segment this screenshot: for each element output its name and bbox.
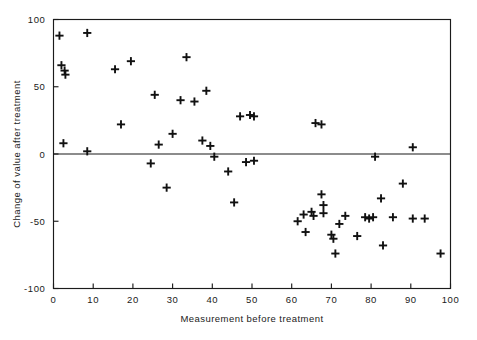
plot-canvas: 0102030405060708090100 100500-50-100 Mea… — [0, 0, 477, 340]
data-point — [242, 158, 250, 166]
data-point — [399, 179, 407, 187]
data-point — [250, 157, 258, 165]
data-point — [353, 232, 361, 240]
y-tick-label: 100 — [28, 14, 46, 25]
data-point — [236, 112, 244, 120]
data-point — [365, 214, 373, 222]
x-tick-label: 70 — [326, 294, 338, 305]
x-tick-label: 90 — [405, 294, 417, 305]
data-point — [379, 241, 387, 249]
x-tick-label: 60 — [286, 294, 298, 305]
data-point — [163, 184, 171, 192]
data-point — [319, 209, 327, 217]
data-point — [409, 143, 417, 151]
x-tick-label: 50 — [246, 294, 258, 305]
y-tick-label: 50 — [34, 81, 46, 92]
y-axis-title: Change of value after treatment — [11, 80, 22, 228]
data-points-layer — [55, 29, 444, 258]
x-tick-label: 30 — [167, 294, 179, 305]
data-point — [198, 136, 206, 144]
data-point — [319, 201, 327, 209]
data-point — [61, 71, 69, 79]
x-tick-labels: 0102030405060708090100 — [51, 294, 460, 305]
x-tick-label: 80 — [365, 294, 377, 305]
data-point — [190, 97, 198, 105]
data-point — [182, 53, 190, 61]
data-point — [294, 217, 302, 225]
data-point — [421, 214, 429, 222]
x-tick-label: 0 — [51, 294, 57, 305]
data-point — [301, 228, 309, 236]
data-point — [250, 112, 258, 120]
x-tick-label: 10 — [87, 294, 99, 305]
data-point — [176, 96, 184, 104]
data-point — [369, 213, 377, 221]
x-tick-label: 20 — [127, 294, 139, 305]
data-point — [55, 32, 63, 40]
data-point — [59, 139, 67, 147]
x-axis-title: Measurement before treatment — [180, 313, 323, 324]
data-point — [83, 29, 91, 37]
axis-titles: Measurement before treatmentChange of va… — [11, 80, 324, 323]
data-point — [155, 140, 163, 148]
data-point — [117, 120, 125, 128]
data-point — [335, 220, 343, 228]
data-point — [361, 213, 369, 221]
scatter-plot-figure: 0102030405060708090100 100500-50-100 Mea… — [0, 0, 477, 340]
y-tick-label: -50 — [30, 216, 46, 227]
data-point — [127, 57, 135, 65]
data-point — [246, 111, 254, 119]
data-point — [436, 249, 444, 257]
x-tick-label: 100 — [442, 294, 460, 305]
data-point — [317, 120, 325, 128]
data-point — [169, 130, 177, 138]
data-point — [377, 194, 385, 202]
data-point — [206, 142, 214, 150]
data-point — [300, 210, 308, 218]
data-point — [224, 167, 232, 175]
data-point — [317, 190, 325, 198]
y-tick-labels: 100500-50-100 — [24, 14, 45, 294]
data-point — [147, 159, 155, 167]
data-point — [341, 212, 349, 220]
data-point — [151, 91, 159, 99]
data-point — [230, 198, 238, 206]
y-tick-label: -100 — [24, 283, 45, 294]
data-point — [331, 249, 339, 257]
x-tick-label: 40 — [206, 294, 218, 305]
y-tick-label: 0 — [40, 149, 46, 160]
data-point — [202, 87, 210, 95]
data-point — [409, 214, 417, 222]
data-point — [111, 65, 119, 73]
data-point — [389, 213, 397, 221]
data-point — [311, 119, 319, 127]
